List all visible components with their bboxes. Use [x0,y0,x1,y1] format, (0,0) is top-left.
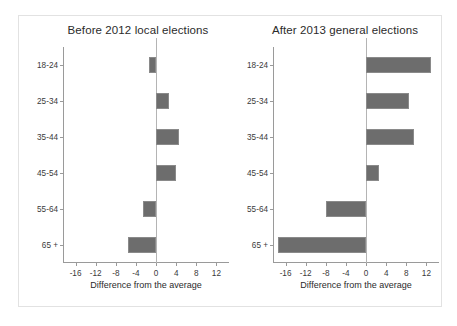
plot-area-before: -16-12-8-404812Difference from the avera… [63,47,229,263]
y-tick-label-before-4554: 45-54 [37,169,58,178]
y-tick-label-after-1824: 18-24 [247,61,268,70]
x-tick-label-after: -4 [342,269,349,278]
zero-reference-line-before [156,38,157,263]
x-tick-mark-before [136,263,137,266]
x-tick-mark-before [196,263,197,266]
y-tick-label-after-5564: 55-64 [247,205,268,214]
x-tick-mark-after [326,263,327,266]
x-tick-mark-after [366,263,367,266]
y-tick-mark-before [60,245,63,246]
bar-after-65 [278,237,366,254]
chart-title-before: Before 2012 local elections [25,24,237,36]
x-tick-label-before: -4 [132,269,139,278]
bar-before-65 [128,237,156,254]
bar-after-5564 [326,201,366,218]
x-axis-line-before [63,262,229,263]
chart-panel-after: After 2013 general elections -16-12-8-40… [237,16,443,308]
y-tick-mark-after [270,209,273,210]
x-tick-mark-after [286,263,287,266]
bar-after-4554 [366,165,379,182]
bar-after-3544 [366,129,414,146]
chart-panel-before: Before 2012 local elections -16-12-8-404… [25,16,237,308]
x-tick-label-before: 12 [212,269,221,278]
y-tick-mark-after [270,65,273,66]
bar-after-2534 [366,93,409,110]
x-tick-mark-before [156,263,157,266]
x-tick-label-before: 4 [174,269,179,278]
y-tick-label-before-2534: 25-34 [37,97,58,106]
y-tick-label-before-5564: 55-64 [37,205,58,214]
y-tick-mark-before [60,65,63,66]
bar-before-2534 [156,93,169,110]
y-tick-mark-before [60,209,63,210]
y-tick-label-after-3544: 35-44 [247,133,268,142]
y-tick-mark-before [60,101,63,102]
y-tick-label-before-65: 65 + [42,241,58,250]
x-axis-title-before: Difference from the average [63,280,229,290]
x-tick-mark-before [96,263,97,266]
y-tick-label-after-65: 65 + [252,241,268,250]
x-tick-mark-before [76,263,77,266]
x-tick-mark-before [216,263,217,266]
y-axis-line-after [273,47,274,263]
y-tick-mark-after [270,245,273,246]
x-tick-label-after: 8 [404,269,409,278]
x-tick-label-before: -16 [70,269,82,278]
bar-before-4554 [156,165,176,182]
bar-before-3544 [156,129,179,146]
y-tick-mark-before [60,137,63,138]
bar-before-5564 [143,201,156,218]
x-tick-mark-after [386,263,387,266]
plot-area-after: -16-12-8-404812Difference from the avera… [273,47,439,263]
chart-title-after: After 2013 general elections [237,24,443,36]
x-tick-mark-after [306,263,307,266]
bar-before-1824 [149,57,157,74]
figure-canvas: Before 2012 local elections -16-12-8-404… [0,0,457,326]
x-tick-label-before: -12 [90,269,102,278]
x-tick-label-after: 4 [384,269,389,278]
x-tick-label-before: -8 [112,269,119,278]
x-tick-mark-after [346,263,347,266]
y-tick-mark-after [270,173,273,174]
y-tick-label-before-1824: 18-24 [37,61,58,70]
y-axis-line-before [63,47,64,263]
figure-frame: Before 2012 local elections -16-12-8-404… [18,15,442,307]
x-tick-label-after: -12 [300,269,312,278]
y-tick-mark-before [60,173,63,174]
x-tick-mark-before [176,263,177,266]
x-tick-label-before: 8 [194,269,199,278]
y-tick-label-after-4554: 45-54 [247,169,268,178]
x-tick-mark-after [406,263,407,266]
y-tick-label-before-3544: 35-44 [37,133,58,142]
x-tick-mark-after [426,263,427,266]
x-tick-label-after: 12 [422,269,431,278]
x-tick-label-after: -16 [280,269,292,278]
y-tick-label-after-2534: 25-34 [247,97,268,106]
x-tick-label-before: 0 [154,269,159,278]
x-axis-title-after: Difference from the average [273,280,439,290]
y-tick-mark-after [270,101,273,102]
x-tick-mark-before [116,263,117,266]
x-tick-label-after: 0 [364,269,369,278]
x-tick-label-after: -8 [322,269,329,278]
x-axis-line-after [273,262,439,263]
bar-after-1824 [366,57,431,74]
y-tick-mark-after [270,137,273,138]
